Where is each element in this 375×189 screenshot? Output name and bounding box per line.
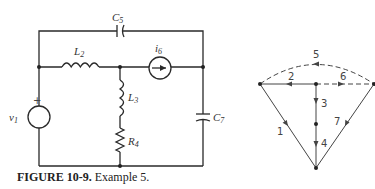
junction — [118, 65, 122, 69]
junction — [201, 65, 205, 69]
figure-title: Example 5. — [95, 170, 150, 184]
edge-label: 2 — [288, 71, 294, 82]
graph-edge-7: 7 — [316, 84, 374, 168]
junction — [37, 65, 41, 69]
inductor-l2: L2 — [62, 45, 99, 67]
edge-label: 7 — [334, 116, 340, 127]
graph-node — [314, 82, 318, 86]
capacitor-c7: C7 — [196, 111, 225, 125]
current-source-i6: i6 — [149, 42, 171, 79]
circuit: C5 L2 i6 + v1 L3 — [9, 11, 225, 168]
graph-node — [258, 82, 262, 86]
graph-edge-1: 1 — [260, 84, 316, 168]
capacitor-c5: C5 — [112, 11, 124, 37]
edge-label: 6 — [340, 71, 346, 82]
label-r4: R4 — [127, 135, 139, 149]
label-v1: v1 — [9, 111, 18, 125]
graph-node — [314, 166, 318, 170]
edge-label: 4 — [321, 138, 327, 149]
edge-label: 5 — [313, 49, 319, 60]
graph-edge-5: 5 — [260, 49, 374, 84]
label-l3: L3 — [127, 91, 138, 105]
figure-number: FIGURE 10-9. — [17, 170, 92, 184]
network-graph: 5 2 6 3 4 1 — [258, 49, 375, 170]
figure: C5 L2 i6 + v1 L3 — [0, 0, 375, 189]
label-c5: C5 — [112, 11, 123, 25]
junction — [118, 164, 122, 168]
label-l2: L2 — [73, 45, 84, 59]
edge-label: 3 — [321, 98, 327, 109]
graph-node — [314, 122, 318, 126]
voltage-source-v1: + v1 — [9, 95, 50, 128]
inductor-l3: L3 — [120, 80, 138, 116]
resistor-r4: R4 — [116, 128, 139, 152]
figure-caption: FIGURE 10-9. Example 5. — [17, 170, 149, 185]
edge-label: 1 — [277, 126, 283, 137]
label-i6: i6 — [155, 42, 162, 56]
label-c7: C7 — [213, 111, 225, 125]
wire-top — [39, 31, 203, 67]
graph-edge-3: 3 — [314, 84, 328, 124]
polarity-plus: + — [33, 95, 41, 106]
